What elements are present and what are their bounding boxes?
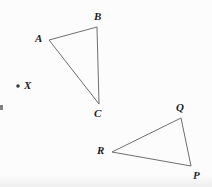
point-label-x: X: [24, 80, 31, 91]
point-x-dot: [16, 84, 20, 88]
vertex-label-p: P: [193, 170, 200, 181]
vertex-label-a: A: [35, 33, 42, 44]
vertex-label-b: B: [94, 11, 101, 22]
vertex-label-q: Q: [176, 102, 184, 113]
triangle-qrp-shape: [112, 118, 191, 166]
geometry-figure: A B C Q R P X: [0, 0, 212, 187]
vertex-label-r: R: [97, 145, 104, 156]
scan-artifact-mark: [0, 105, 3, 110]
vertex-label-c: C: [94, 108, 101, 119]
triangle-abc-shape: [49, 27, 99, 104]
figure-canvas: [0, 0, 212, 187]
